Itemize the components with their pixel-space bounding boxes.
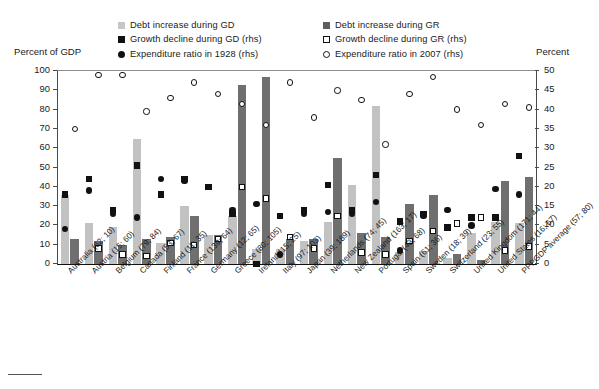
y-axis-right-tickmark	[535, 244, 539, 245]
y-axis-left-tickmark	[53, 186, 57, 187]
point-growth-decline-gd	[62, 191, 68, 197]
y-axis-right-tick: 20	[544, 180, 554, 191]
y-axis-left-tick: 90	[20, 83, 50, 94]
chart-figure: Debt increase during GD Growth decline d…	[0, 0, 599, 389]
square-black-icon	[118, 36, 125, 43]
y-axis-left-tickmark	[53, 109, 57, 110]
legend-column-right: Debt increase during GR Growth decline d…	[323, 18, 467, 62]
point-growth-decline-gd	[468, 214, 474, 220]
point-growth-decline-gd	[205, 184, 211, 190]
point-expenditure-2007	[478, 122, 484, 128]
point-expenditure-1928	[444, 207, 450, 213]
legend-label: Expenditure ratio in 2007 (rhs)	[335, 50, 463, 59]
y-axis-right-tickmark	[535, 128, 539, 129]
y-axis-left-tickmark	[53, 89, 57, 90]
point-expenditure-1928	[325, 209, 331, 215]
point-growth-decline-gd	[277, 213, 283, 219]
point-expenditure-1928	[110, 211, 116, 217]
y-axis-left-tick: 100	[20, 64, 50, 75]
legend-item-expenditure-1928: Expenditure ratio in 1928 (rhs)	[118, 47, 262, 62]
point-expenditure-1928	[86, 187, 92, 193]
point-expenditure-2007	[526, 104, 532, 110]
legend-label: Expenditure ratio in 1928 (rhs)	[130, 50, 258, 59]
y-axis-left-tick: 30	[20, 199, 50, 210]
y-axis-left-tick: 20	[20, 218, 50, 229]
y-axis-right-tick: 35	[544, 122, 554, 133]
legend-label: Debt increase during GD	[130, 21, 235, 30]
circle-open-icon	[323, 51, 330, 58]
point-growth-decline-gd	[325, 182, 331, 188]
y-axis-right-tick: 45	[544, 83, 554, 94]
square-dark-gray-icon	[323, 22, 330, 29]
y-axis-right-tick: 25	[544, 161, 554, 172]
point-expenditure-2007	[72, 126, 78, 132]
point-expenditure-1928	[253, 201, 259, 207]
y-axis-right-tick: 50	[544, 64, 554, 75]
legend-column-left: Debt increase during GD Growth decline d…	[118, 18, 262, 62]
y-axis-left-tick: 10	[20, 238, 50, 249]
point-expenditure-2007	[430, 74, 436, 80]
y-axis-left-tick: 60	[20, 141, 50, 152]
point-growth-decline-gd	[158, 191, 164, 197]
y-axis-left-tickmark	[53, 244, 57, 245]
point-growth-decline-gd	[444, 224, 450, 230]
y-axis-right-tickmark	[535, 89, 539, 90]
point-expenditure-2007	[454, 106, 460, 112]
point-expenditure-2007	[167, 95, 173, 101]
y-axis-right-tick: 15	[544, 199, 554, 210]
legend-item-growth-decline-gd: Growth decline during GD (rhs)	[118, 33, 262, 48]
y-axis-left-tick: 40	[20, 180, 50, 191]
point-growth-decline-gd	[516, 153, 522, 159]
y-axis-right-tickmark	[535, 70, 539, 71]
point-expenditure-1928	[492, 186, 498, 192]
legend-label: Debt increase during GR	[335, 21, 440, 30]
y-axis-right-tickmark	[535, 186, 539, 187]
point-expenditure-2007	[358, 97, 364, 103]
point-expenditure-1928	[229, 207, 235, 213]
point-growth-decline-gr	[239, 184, 245, 190]
point-expenditure-2007	[119, 72, 125, 78]
y-axis-left-tickmark	[53, 263, 57, 264]
y-axis-right-tick: 0	[544, 257, 549, 268]
circle-filled-black-icon	[118, 51, 125, 58]
y-axis-right-tickmark	[535, 147, 539, 148]
y-axis-left-tickmark	[53, 70, 57, 71]
point-expenditure-1928	[134, 214, 140, 220]
point-expenditure-1928	[516, 191, 522, 197]
y-axis-right-tickmark	[535, 109, 539, 110]
square-light-gray-icon	[118, 22, 125, 29]
right-axis-title: Percent	[536, 46, 569, 57]
point-expenditure-1928	[468, 222, 474, 228]
y-axis-right-tickmark	[535, 167, 539, 168]
point-expenditure-1928	[420, 213, 426, 219]
y-axis-left-tickmark	[53, 147, 57, 148]
legend-item-growth-decline-gr: Growth decline during GR (rhs)	[323, 33, 467, 48]
left-axis-title: Percent of GDP	[14, 46, 81, 57]
point-expenditure-2007	[334, 87, 340, 93]
footnote-rule	[8, 374, 42, 375]
y-axis-left-tick: 50	[20, 161, 50, 172]
y-axis-left-tickmark	[53, 205, 57, 206]
y-axis-left-tick: 80	[20, 103, 50, 114]
point-expenditure-2007	[95, 72, 101, 78]
y-axis-left-tickmark	[53, 167, 57, 168]
square-open-icon	[323, 36, 330, 43]
point-expenditure-1928	[158, 176, 164, 182]
legend-label: Growth decline during GD (rhs)	[130, 35, 262, 44]
point-expenditure-1928	[301, 211, 307, 217]
legend-item-expenditure-2007: Expenditure ratio in 2007 (rhs)	[323, 47, 467, 62]
y-axis-left-tick: 0	[20, 257, 50, 268]
point-expenditure-2007	[311, 114, 317, 120]
point-growth-decline-gd	[134, 162, 140, 168]
point-growth-decline-gr	[454, 220, 460, 226]
point-expenditure-2007	[143, 108, 149, 114]
point-growth-decline-gr	[478, 214, 484, 220]
point-growth-decline-gr	[334, 213, 340, 219]
legend-item-debt-increase-gr: Debt increase during GR	[323, 18, 467, 33]
y-axis-left-tick: 70	[20, 122, 50, 133]
chart-group	[58, 71, 82, 264]
point-growth-decline-gd	[373, 172, 379, 178]
chart-legend: Debt increase during GD Growth decline d…	[118, 18, 518, 62]
point-growth-decline-gr	[263, 195, 269, 201]
bar-debt-increase-gd	[372, 106, 381, 264]
